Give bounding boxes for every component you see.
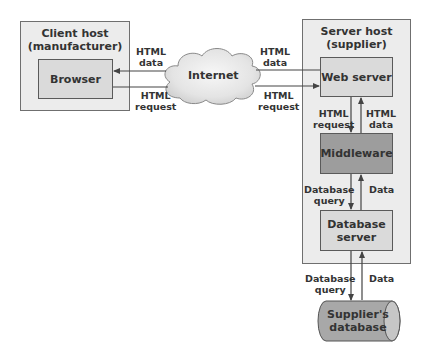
label-dbs-mw-data: Data	[369, 184, 394, 195]
label-dbs-store-query: Database query	[305, 273, 356, 295]
label-right-html-data-line1: HTML	[260, 46, 290, 57]
label-left-html-request-line2: request	[135, 101, 176, 112]
label-left-html-data-line1: HTML	[136, 46, 166, 57]
label-left-html-request: HTML request	[135, 90, 176, 112]
label-mw-ws-data: HTML data	[366, 108, 396, 130]
label-right-html-request-line2: request	[258, 101, 299, 112]
label-store-dbs-data: Data	[369, 273, 394, 284]
label-ws-mw-request-line2: request	[313, 119, 354, 130]
label-dbs-mw-data-line1: Data	[369, 184, 394, 195]
label-mw-dbs-query: Database query	[304, 184, 355, 206]
label-right-html-request-line1: HTML	[258, 90, 299, 101]
label-right-html-data: HTML data	[260, 46, 290, 68]
label-mw-ws-data-line2: data	[366, 119, 396, 130]
suppliers-database-label-line1: Supplier's	[322, 308, 394, 321]
suppliers-database-label: Supplier's database	[322, 308, 394, 334]
label-left-html-data-line2: data	[136, 57, 166, 68]
label-ws-mw-request-line1: HTML	[313, 108, 354, 119]
suppliers-database-label-line2: database	[322, 321, 394, 334]
label-mw-dbs-query-line2: query	[304, 195, 355, 206]
internet-label: Internet	[188, 69, 239, 82]
diagram-graphics	[0, 0, 434, 360]
label-store-dbs-data-line1: Data	[369, 273, 394, 284]
label-left-html-data: HTML data	[136, 46, 166, 68]
label-left-html-request-line1: HTML	[135, 90, 176, 101]
label-ws-mw-request: HTML request	[313, 108, 354, 130]
label-mw-ws-data-line1: HTML	[366, 108, 396, 119]
label-dbs-store-query-line1: Database	[305, 273, 356, 284]
label-dbs-store-query-line2: query	[305, 284, 356, 295]
label-right-html-data-line2: data	[260, 57, 290, 68]
label-right-html-request: HTML request	[258, 90, 299, 112]
label-mw-dbs-query-line1: Database	[304, 184, 355, 195]
